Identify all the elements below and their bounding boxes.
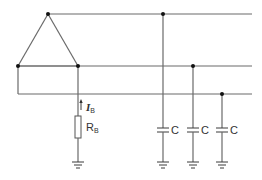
current-label: IB [85,101,95,114]
ground-icon [72,162,84,168]
capacitor-branch-1 [157,14,169,168]
junction-dot [161,12,165,16]
grounding-resistor [75,116,81,138]
ground-icon [157,162,169,168]
capacitor-branch-2 [187,66,199,168]
capacitor-branch-3 [216,94,228,168]
current-arrow-icon [79,99,82,110]
ground-icon [216,162,228,168]
junction-dot [191,64,195,68]
capacitor-label: C [171,124,179,136]
delta-source [18,14,78,66]
junction-dot [220,92,224,96]
junction-dot [46,12,50,16]
junction-dot [76,64,80,68]
capacitor-label: C [201,124,209,136]
ground-icon [187,162,199,168]
junction-dot [16,64,20,68]
capacitor-label: C [230,124,238,136]
resistor-label: RB [86,121,99,134]
circuit-diagram: IB RB C C [0,0,262,180]
